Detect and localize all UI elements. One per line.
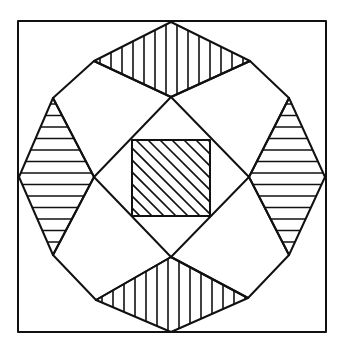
left-triangle-hatch — [19, 104, 94, 254]
geometric-quilt-diagram — [0, 0, 344, 353]
left-triangle — [19, 98, 94, 255]
bottom-triangle-hatch — [102, 257, 245, 332]
top-triangle-hatch — [100, 22, 243, 97]
top-left-rhombus — [53, 61, 171, 177]
right-triangle — [249, 98, 325, 255]
rhombus-outlines — [53, 61, 289, 300]
right-triangle-hatch — [249, 104, 325, 254]
bottom-triangle — [96, 257, 248, 332]
bottom-right-rhombus — [171, 177, 289, 298]
top-triangle — [94, 22, 250, 97]
hatching — [19, 22, 325, 332]
